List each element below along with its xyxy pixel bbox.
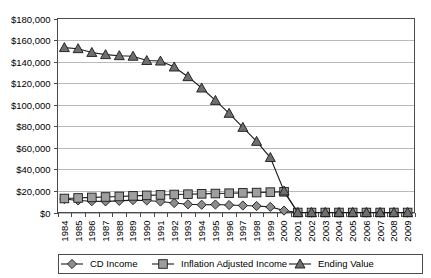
x-axis-tick-label: 1998 <box>251 221 262 242</box>
data-point-marker <box>266 202 275 211</box>
x-axis-tick-label: 2004 <box>333 221 344 242</box>
x-axis-tick-label: 1996 <box>224 221 235 242</box>
x-axis-tick-label: 2000 <box>278 221 289 242</box>
x-axis-tick-label: 2008 <box>388 221 399 242</box>
data-point-marker <box>59 43 69 52</box>
x-axis-tick-label: 2009 <box>402 221 413 242</box>
x-axis-tick-label: 2006 <box>361 221 372 242</box>
x-axis-tick-label: 2002 <box>306 221 317 242</box>
data-point-marker <box>74 194 83 203</box>
data-point-marker <box>211 200 220 209</box>
x-axis-tick-label: 1997 <box>237 221 248 242</box>
data-point-marker <box>184 190 193 199</box>
legend-item-label: Ending Value <box>318 258 374 269</box>
x-axis-tick-label: 1988 <box>114 221 125 242</box>
data-point-marker <box>238 201 247 210</box>
data-point-marker <box>115 192 124 201</box>
chart-legend: CD IncomeInflation Adjusted IncomeEnding… <box>59 255 423 274</box>
data-point-marker <box>197 83 207 92</box>
y-axis-tick-label: $160,000 <box>11 35 51 46</box>
y-axis-tick-label: $0 <box>40 208 51 219</box>
y-axis-tick-label: $80,000 <box>16 121 50 132</box>
x-axis-tick-label: 1991 <box>155 221 166 242</box>
data-point-marker <box>169 62 179 71</box>
x-axis-tick-label: 2001 <box>292 221 303 242</box>
data-point-marker <box>239 189 248 198</box>
y-axis-tick-label: $140,000 <box>11 57 51 68</box>
x-axis-tick-label: 1989 <box>127 221 138 242</box>
x-axis-tick-label: 1993 <box>182 221 193 242</box>
x-axis-tick-labels: 1984198519861987198819891990199119921993… <box>59 221 413 242</box>
x-axis-tick-label: 2003 <box>320 221 331 242</box>
data-series-group <box>59 43 412 218</box>
series-triangle <box>59 43 412 217</box>
x-axis-tick-label: 1986 <box>86 221 97 242</box>
plot-area-frame <box>58 19 415 213</box>
chart-container: $0$20,000$40,000$60,000$80,000$100,000$1… <box>0 0 431 278</box>
data-point-marker <box>266 188 275 197</box>
data-point-marker <box>60 194 69 203</box>
data-point-marker <box>142 56 152 65</box>
y-axis-tick-label: $20,000 <box>16 186 50 197</box>
legend-item-label: CD Income <box>90 258 138 269</box>
data-point-marker <box>197 200 206 209</box>
data-point-marker <box>225 200 234 209</box>
y-axis-tick-labels: $0$20,000$40,000$60,000$80,000$100,000$1… <box>11 14 51 219</box>
y-axis-tick-label: $120,000 <box>11 78 51 89</box>
y-axis-tick-label: $60,000 <box>16 143 50 154</box>
data-point-marker <box>129 192 138 201</box>
x-axis-tick-label: 1992 <box>169 221 180 242</box>
x-axis-tick-label: 1999 <box>265 221 276 242</box>
data-point-marker <box>156 191 165 200</box>
data-point-marker <box>252 201 261 210</box>
x-axis-tick-label: 2007 <box>375 221 386 242</box>
y-axis-tick-label: $40,000 <box>16 164 50 175</box>
legend-item-diamond[interactable]: CD Income <box>61 258 138 269</box>
data-point-marker <box>252 188 261 197</box>
data-point-marker <box>183 72 193 81</box>
data-point-marker <box>88 193 97 202</box>
x-axis-tick-label: 1994 <box>196 221 207 242</box>
data-point-marker <box>211 189 220 198</box>
x-axis-tick-label: 1985 <box>73 221 84 242</box>
y-axis-tick-label: $100,000 <box>11 100 51 111</box>
data-point-marker <box>183 200 192 209</box>
x-axis-tick-label: 1995 <box>210 221 221 242</box>
x-axis-tick-label: 1987 <box>100 221 111 242</box>
data-point-marker <box>225 189 234 198</box>
data-point-marker <box>197 190 206 199</box>
x-axis-tick-label: 1984 <box>59 221 70 242</box>
legend-item-label: Inflation Adjusted Income <box>181 258 287 269</box>
series-line <box>64 48 407 213</box>
x-axis-tick-label: 2005 <box>347 221 358 242</box>
data-point-marker <box>170 198 179 207</box>
x-axis-tick-label: 1990 <box>141 221 152 242</box>
data-point-marker <box>142 191 151 200</box>
data-point-marker <box>101 193 110 202</box>
line-chart: $0$20,000$40,000$60,000$80,000$100,000$1… <box>0 0 431 278</box>
data-point-marker <box>170 190 179 199</box>
y-axis-tick-label: $180,000 <box>11 14 51 25</box>
data-point-marker <box>159 260 168 269</box>
